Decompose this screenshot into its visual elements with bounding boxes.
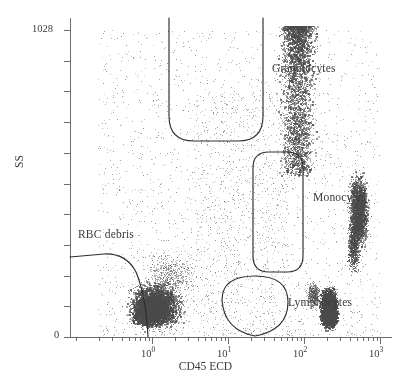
population-label-rbc-debris: RBC debris — [78, 228, 134, 240]
gate-monocytes — [253, 152, 303, 272]
population-gates — [70, 18, 303, 337]
y-axis-title: SS — [13, 155, 25, 168]
gate-rbc-debris — [70, 254, 148, 337]
y-axis-ticks — [64, 31, 70, 338]
gate-granulocytes — [169, 18, 263, 141]
population-label-granulocytes: Granulocytes — [272, 62, 336, 74]
population-label-lymphocytes: Lymphocytes — [288, 296, 352, 308]
flow-cytometry-scatter-plot: 1028 0 100101102103 SS CD45 ECD Granuloc… — [0, 0, 411, 386]
x-axis-ticks — [77, 337, 381, 344]
y-axis-min-tick-label: 0 — [54, 329, 59, 340]
population-label-monocytes: Monocytes — [313, 191, 366, 203]
y-axis-max-tick-label: 1028 — [32, 23, 53, 34]
gate-lymphocytes — [222, 276, 288, 336]
x-axis-tick-label: 101 — [217, 345, 231, 359]
x-axis-tick-label: 103 — [369, 345, 383, 359]
axis-frame — [70, 18, 392, 337]
x-axis-tick-label: 100 — [141, 345, 155, 359]
x-axis-tick-label: 102 — [293, 345, 307, 359]
x-axis-title: CD45 ECD — [0, 360, 411, 372]
